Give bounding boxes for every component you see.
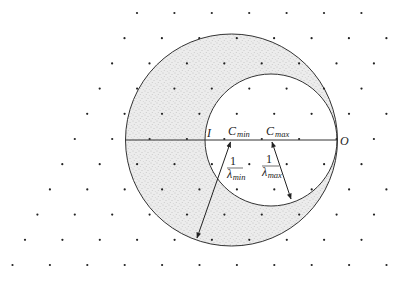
- lattice-point: [223, 62, 225, 64]
- lattice-point: [286, 12, 288, 14]
- lattice-point: [311, 188, 313, 190]
- lattice-point: [111, 138, 113, 140]
- lattice-point: [311, 113, 313, 115]
- lattice-point: [261, 214, 263, 216]
- lattice-point: [273, 113, 275, 115]
- lattice-point: [348, 113, 350, 115]
- diagram-svg: I Cmin Cmax O 1 λmin 1 λmax: [0, 0, 401, 282]
- lattice-point: [360, 88, 362, 90]
- lattice-point: [385, 37, 387, 39]
- lattice-point: [261, 62, 263, 64]
- lattice-point: [111, 62, 113, 64]
- lattice-point: [149, 214, 151, 216]
- lattice-point: [136, 12, 138, 14]
- lattice-point: [86, 113, 88, 115]
- lattice-point: [148, 62, 150, 64]
- lattice-point: [286, 239, 288, 241]
- lattice-point: [248, 239, 250, 241]
- lattice-point: [123, 37, 125, 39]
- lattice-point: [385, 188, 387, 190]
- lattice-point: [273, 264, 275, 266]
- lattice-point: [186, 62, 188, 64]
- lattice-point: [286, 88, 288, 90]
- lattice-point: [161, 188, 163, 190]
- lattice-point: [248, 88, 250, 90]
- lattice-point: [273, 188, 275, 190]
- lattice-point: [311, 264, 313, 266]
- lattice-point: [11, 264, 13, 266]
- lattice-point: [323, 239, 325, 241]
- lattice-point: [286, 163, 288, 165]
- lattice-point: [236, 264, 238, 266]
- lattice-point: [336, 214, 338, 216]
- lattice-point: [236, 113, 238, 115]
- lattice-point: [124, 113, 126, 115]
- lattice-point: [373, 214, 375, 216]
- lattice-point: [360, 239, 362, 241]
- lattice-point: [198, 188, 200, 190]
- lattice-point: [273, 37, 275, 39]
- lattice-point: [174, 239, 176, 241]
- lattice-point: [24, 239, 26, 241]
- lattice-point: [348, 188, 350, 190]
- lattice-point: [161, 264, 163, 266]
- lattice-point: [99, 88, 101, 90]
- lattice-point: [86, 264, 88, 266]
- lattice-point: [124, 188, 126, 190]
- lattice-point: [311, 37, 313, 39]
- lattice-point: [236, 188, 238, 190]
- lattice-point: [49, 188, 51, 190]
- lattice-point: [99, 163, 101, 165]
- lattice-point: [161, 113, 163, 115]
- lattice-point: [223, 214, 225, 216]
- lattice-point: [323, 12, 325, 14]
- lattice-point: [211, 88, 213, 90]
- lattice-point: [124, 264, 126, 266]
- lattice-point: [49, 264, 51, 266]
- lattice-point: [385, 113, 387, 115]
- lattice-point: [323, 163, 325, 165]
- lattice-point: [173, 12, 175, 14]
- lattice-point: [360, 12, 362, 14]
- lattice-point: [136, 239, 138, 241]
- lattice-point: [173, 88, 175, 90]
- svg-text:1: 1: [266, 152, 272, 166]
- lattice-point: [136, 163, 138, 165]
- lattice-point: [335, 62, 337, 64]
- lattice-point: [298, 214, 300, 216]
- lattice-point: [348, 264, 350, 266]
- lattice-point: [86, 188, 88, 190]
- lattice-point: [99, 239, 101, 241]
- lattice-point: [298, 62, 300, 64]
- ewald-diagram: I Cmin Cmax O 1 λmin 1 λmax: [0, 0, 401, 282]
- lattice-point: [198, 113, 200, 115]
- lattice-point: [211, 12, 213, 14]
- label-O: O: [340, 134, 349, 148]
- lattice-point: [248, 12, 250, 14]
- lattice-point: [36, 214, 38, 216]
- lattice-point: [161, 37, 163, 39]
- lattice-point: [198, 264, 200, 266]
- lattice-point: [211, 163, 213, 165]
- lattice-point: [61, 163, 63, 165]
- svg-text:1: 1: [230, 154, 236, 168]
- lattice-point: [236, 37, 238, 39]
- lattice-point: [61, 239, 63, 241]
- lattice-point: [74, 214, 76, 216]
- lattice-point: [111, 214, 113, 216]
- lattice-point: [74, 138, 76, 140]
- lattice-point: [248, 163, 250, 165]
- lattice-point: [360, 163, 362, 165]
- lattice-point: [211, 239, 213, 241]
- lattice-point: [173, 163, 175, 165]
- lattice-point: [373, 138, 375, 140]
- lattice-point: [385, 264, 387, 266]
- lattice-point: [348, 37, 350, 39]
- lattice-point: [186, 214, 188, 216]
- lattice-point: [373, 62, 375, 64]
